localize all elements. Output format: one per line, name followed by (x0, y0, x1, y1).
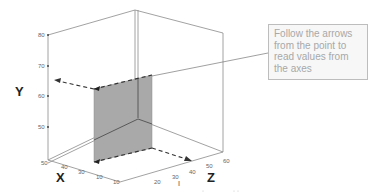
small-marker: I (178, 180, 180, 187)
x-tick-0: 50 (41, 160, 48, 166)
x-axis-ticks: 50 40 30 10 10 (41, 160, 120, 185)
decorative-dots (202, 190, 238, 191)
z-tick-50: 50 (206, 163, 213, 169)
shaded-plane (94, 75, 152, 162)
y-tick-60: 60 (38, 93, 45, 99)
x-tick-2: 30 (78, 169, 85, 175)
x-axis-label: X (56, 170, 65, 185)
callout-leader-line (152, 53, 268, 76)
dashed-arrow-to-y-axis (54, 78, 94, 89)
x-tick-3: 10 (96, 174, 103, 180)
y-tick-70: 70 (38, 63, 45, 69)
y-axis-ticks: 80 70 60 50 (38, 32, 49, 130)
dashed-arrow-to-z-axis (152, 148, 192, 161)
y-axis-label: Y (15, 84, 24, 99)
z-tick-40: 40 (189, 169, 196, 175)
y-tick-80: 80 (38, 32, 45, 38)
z-axis-ticks: 20 30 40 50 60 (154, 158, 230, 185)
z-axis-label: Z (207, 170, 215, 185)
y-tick-50: 50 (38, 124, 45, 130)
callout-text: Follow the arrows from the point to read… (274, 28, 352, 74)
x-tick-4: 10 (113, 179, 120, 185)
z-tick-20: 20 (154, 179, 161, 185)
callout-box: Follow the arrows from the point to read… (268, 24, 368, 80)
z-tick-60: 60 (223, 158, 230, 164)
